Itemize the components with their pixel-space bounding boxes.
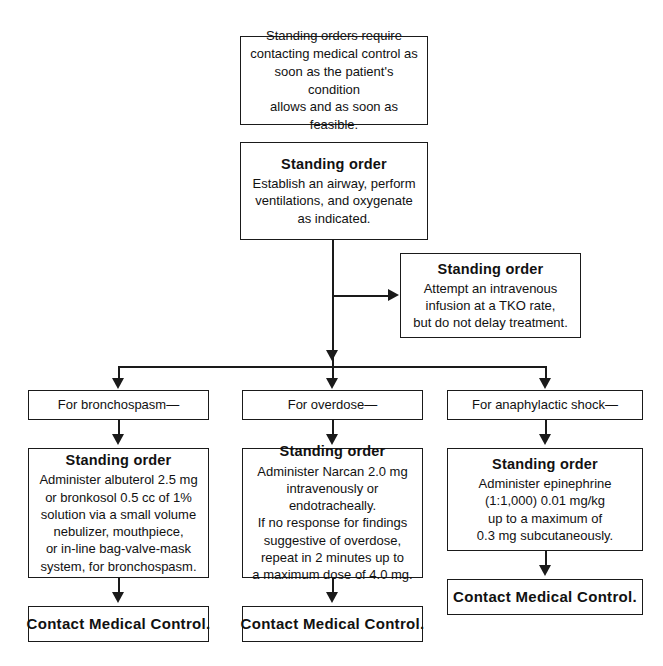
node-order-overdose-title: Standing order — [280, 442, 386, 461]
arrowhead-branch-anaphylaxis — [539, 378, 551, 389]
node-contact-medical-control-left: Contact Medical Control. — [28, 606, 209, 642]
flowchart-canvas: Standing orders require contacting medic… — [0, 0, 663, 666]
node-iv-infusion: Standing order Attempt an intravenous in… — [400, 253, 581, 338]
node-order-anaphylaxis-text: Administer epinephrine (1:1,000) 0.01 mg… — [477, 475, 613, 544]
node-order-anaphylaxis-title: Standing order — [492, 455, 598, 474]
node-order-overdose: Standing order Administer Narcan 2.0 mg … — [242, 448, 423, 578]
arrowhead-contact-middle — [326, 592, 338, 603]
arrowhead-order-anaphylaxis — [539, 434, 551, 445]
arrowhead-contact-right — [539, 565, 551, 576]
node-branch-overdose: For overdose— — [242, 390, 423, 420]
connector-airway-trunk — [332, 240, 334, 367]
arrowhead-order-bronchospasm — [112, 434, 124, 445]
node-order-anaphylaxis: Standing order Administer epinephrine (1… — [447, 448, 643, 551]
arrowhead-branch-overdose — [326, 378, 338, 389]
node-airway: Standing order Establish an airway, perf… — [240, 142, 428, 240]
arrowhead-branch-bronchospasm — [112, 378, 124, 389]
node-airway-title: Standing order — [281, 155, 387, 174]
node-branch-bronchospasm: For bronchospasm— — [28, 390, 209, 420]
node-order-bronchospasm: Standing order Administer albuterol 2.5 … — [28, 448, 209, 578]
node-iv-infusion-text: Attempt an intravenous infusion at a TKO… — [413, 280, 568, 332]
node-iv-infusion-title: Standing order — [438, 260, 544, 279]
node-contact-left-text: Contact Medical Control. — [27, 614, 211, 634]
arrowhead-to-iv — [388, 289, 399, 301]
node-order-overdose-text: Administer Narcan 2.0 mg intravenously o… — [249, 463, 416, 584]
node-order-bronchospasm-text: Administer albuterol 2.5 mg or bronkosol… — [39, 471, 197, 575]
arrowhead-trunk-bottom — [326, 350, 338, 361]
node-branch-anaphylaxis: For anaphylactic shock— — [447, 390, 643, 420]
connector-trunk-to-iv — [332, 295, 390, 297]
node-branch-bronchospasm-text: For bronchospasm— — [58, 396, 179, 414]
node-branch-anaphylaxis-text: For anaphylactic shock— — [472, 396, 618, 414]
node-order-bronchospasm-title: Standing order — [66, 451, 172, 470]
node-contact-medical-control-right: Contact Medical Control. — [447, 579, 643, 615]
node-contact-middle-text: Contact Medical Control. — [241, 614, 425, 634]
node-intro-text: Standing orders require contacting medic… — [247, 27, 421, 135]
node-airway-text: Establish an airway, perform ventilation… — [252, 175, 415, 227]
node-contact-medical-control-middle: Contact Medical Control. — [242, 606, 423, 642]
node-intro: Standing orders require contacting medic… — [240, 36, 428, 125]
node-contact-right-text: Contact Medical Control. — [453, 587, 637, 607]
node-branch-overdose-text: For overdose— — [288, 396, 378, 414]
arrowhead-contact-left — [112, 592, 124, 603]
